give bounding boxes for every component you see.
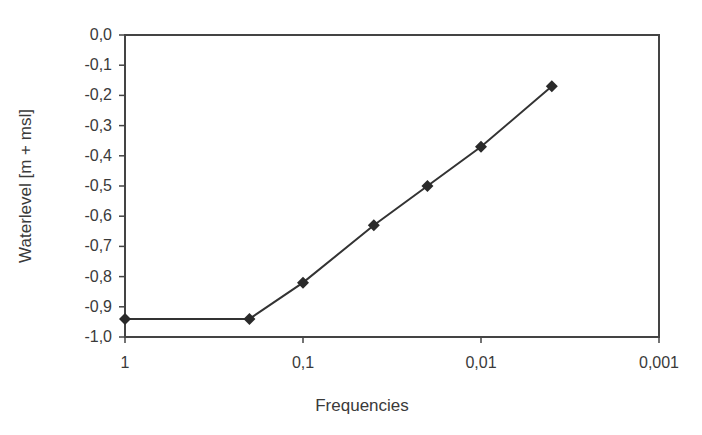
y-tick-label: -0,3 bbox=[84, 117, 112, 135]
x-tick-label: 1 bbox=[121, 354, 130, 372]
x-tick-label: 0,1 bbox=[292, 354, 314, 372]
x-tick-label: 0,01 bbox=[465, 354, 496, 372]
y-tick-label: -0,7 bbox=[84, 237, 112, 255]
y-tick-label: -0,2 bbox=[84, 86, 112, 104]
plot-frame bbox=[125, 35, 659, 337]
x-tick-label: 0,001 bbox=[639, 354, 679, 372]
y-tick-label: -0,9 bbox=[84, 298, 112, 316]
x-axis-label: Frequencies bbox=[315, 396, 409, 416]
y-tick-label: -0,4 bbox=[84, 147, 112, 165]
y-tick-label: -0,6 bbox=[84, 207, 112, 225]
y-tick-label: -0,5 bbox=[84, 177, 112, 195]
y-tick-label: 0,0 bbox=[90, 26, 112, 44]
y-tick-label: -0,8 bbox=[84, 268, 112, 286]
y-tick-label: -1,0 bbox=[84, 328, 112, 346]
y-axis-label: Waterlevel [m + msl] bbox=[16, 109, 36, 263]
y-tick-label: -0,1 bbox=[84, 56, 112, 74]
